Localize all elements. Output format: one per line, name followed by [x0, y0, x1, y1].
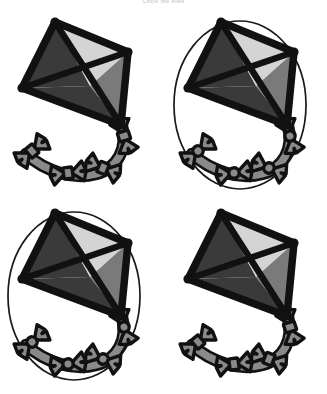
kite-illustration-bottom-right: [166, 199, 327, 394]
kite-body: [183, 208, 298, 320]
kite-illustration-bottom-left: [0, 199, 161, 394]
kite-illustration-top-right: [166, 8, 327, 203]
worksheet-page: Circle the kites: [0, 0, 327, 394]
kite-graphic: [0, 8, 161, 203]
kite-body: [17, 17, 132, 129]
page-title: Circle the kites: [0, 0, 327, 5]
kite-body: [17, 208, 132, 320]
kite-graphic: [0, 199, 161, 394]
kite-illustration-top-left: [0, 8, 161, 203]
kite-graphic: [166, 199, 327, 394]
kite-body: [183, 17, 298, 129]
kite-graphic: [166, 8, 327, 203]
